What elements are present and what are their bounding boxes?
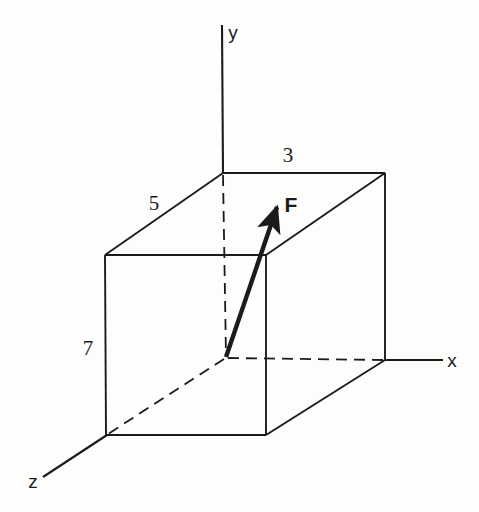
- force-vector-arrow: [226, 207, 277, 357]
- diagram-canvas: [0, 0, 479, 512]
- hidden-edge-bottom-back: [228, 358, 384, 360]
- axis-lines: [43, 25, 443, 477]
- figure-root: y x z 5 3 7 F: [0, 0, 479, 512]
- y-axis-line: [222, 25, 223, 173]
- dimension-label-height-7: 7: [83, 338, 94, 359]
- hidden-edge-back-left-vertical: [223, 175, 226, 356]
- hidden-edge-bottom-left-diagonal: [108, 359, 224, 434]
- force-vector-label-F: F: [285, 194, 298, 215]
- edge-front-left-vertical: [105, 255, 106, 435]
- force-vector-shaft: [226, 207, 277, 357]
- axis-label-z: z: [28, 472, 38, 491]
- dimension-label-width-3: 3: [283, 145, 294, 166]
- axis-label-x: x: [447, 351, 457, 370]
- z-axis-line: [43, 435, 107, 477]
- edge-top-left-diagonal: [105, 173, 223, 255]
- dimension-label-depth-5: 5: [149, 193, 160, 214]
- axis-label-y: y: [228, 23, 238, 42]
- edge-bottom-right-diagonal: [266, 360, 385, 435]
